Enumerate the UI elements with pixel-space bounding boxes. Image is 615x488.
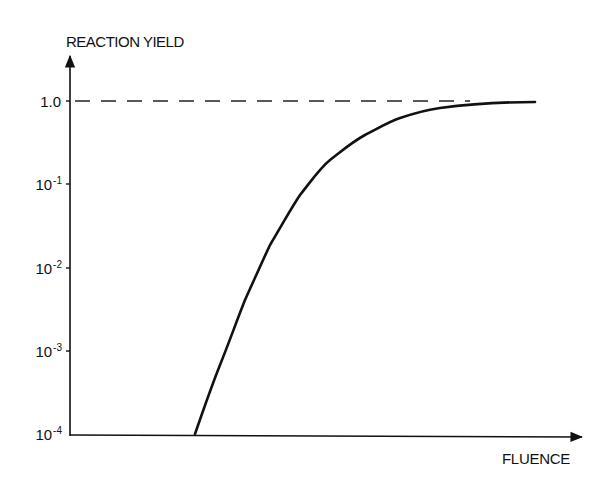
chart-canvas: [0, 0, 615, 488]
y-tick-label-1e-2: 10-2: [18, 259, 62, 277]
y-tick-label-1e-3: 10-3: [18, 342, 62, 360]
y-tick-label-1: 1.0: [18, 92, 62, 110]
x-axis: [70, 435, 582, 437]
y-tick-label-1e-1: 10-1: [18, 175, 62, 193]
yield-curve: [195, 102, 535, 434]
x-axis-label: FLUENCE: [502, 450, 570, 467]
y-tick-label-1e-4: 10-4: [18, 425, 62, 443]
y-axis-label: REACTION YIELD: [66, 33, 184, 50]
